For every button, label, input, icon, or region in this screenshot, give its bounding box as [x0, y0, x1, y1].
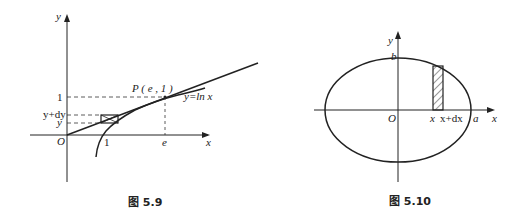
a-label: a [473, 112, 479, 124]
x-e-label: e [162, 136, 167, 148]
x-plus-dx-label: x+dx [440, 112, 463, 124]
figure-caption: 图 5.9 [128, 196, 162, 209]
hatched-strip [433, 66, 443, 110]
x-axis-label: x [491, 112, 497, 124]
y-axis-label: y [387, 34, 393, 46]
y-one-label: 1 [57, 91, 63, 103]
figure-5-10: y b O x x+dx a x 图 5.10 [314, 31, 497, 208]
curve-label: y=ln x [183, 90, 213, 102]
figure-canvas: y x O 1 e 1 y+dy y P ( e , 1 ) y=ln x 图 … [0, 0, 520, 217]
y-axis-label: y [55, 10, 61, 22]
point-p-label: P ( e , 1 ) [131, 82, 173, 95]
origin-label: O [57, 135, 65, 147]
origin-label: O [388, 112, 396, 124]
y-label: y [56, 116, 62, 128]
y-axis-arrow-icon [395, 31, 401, 39]
y-axis-arrow-icon [64, 14, 70, 22]
x-label: x [429, 112, 435, 124]
b-label: b [391, 50, 397, 62]
figure-caption: 图 5.10 [389, 195, 431, 208]
y-plus-dy-label: y+dy [43, 108, 66, 120]
figure-5-9: y x O 1 e 1 y+dy y P ( e , 1 ) y=ln x 图 … [30, 10, 258, 209]
x-axis-label: x [205, 136, 211, 148]
point-p [164, 96, 167, 99]
x-one-label: 1 [104, 136, 110, 148]
